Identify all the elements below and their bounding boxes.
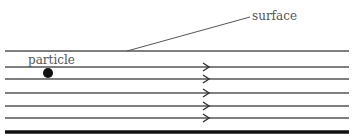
flow-layer bbox=[5, 114, 349, 122]
surface-label: surface bbox=[252, 9, 297, 23]
particle-dot bbox=[43, 68, 53, 78]
flow-layer bbox=[5, 102, 349, 110]
flow-layer bbox=[5, 75, 349, 83]
flow-layer bbox=[5, 89, 349, 97]
particle-label: particle bbox=[28, 53, 75, 67]
surface-leader-line bbox=[127, 17, 250, 51]
flow-layers-diagram: surface particle bbox=[0, 0, 358, 140]
